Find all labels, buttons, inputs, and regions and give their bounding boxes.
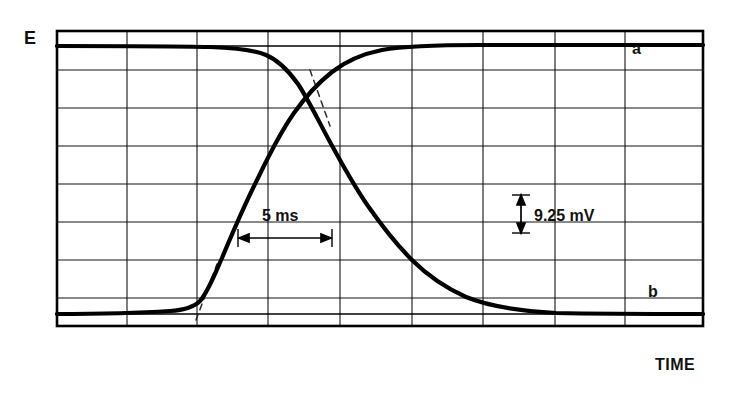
grid-horizontal-lines	[57, 70, 703, 298]
time-span-arrow	[238, 229, 332, 247]
curve-a-label: a	[632, 40, 641, 58]
voltage-span-arrow-head-bottom	[517, 223, 525, 233]
x-axis-label: TIME	[655, 356, 695, 374]
time-span-arrow-head-right	[321, 234, 331, 242]
curve-a-trace	[57, 45, 703, 314]
voltage-span-label: 9.25 mV	[534, 207, 594, 225]
time-span-label: 5 ms	[262, 207, 298, 225]
curve-b-label: b	[648, 283, 658, 301]
voltage-span-arrow-head-top	[517, 195, 525, 205]
plot-frame	[57, 31, 703, 326]
voltage-span-arrow	[512, 195, 530, 233]
time-span-arrow-head-left	[239, 234, 249, 242]
grid-vertical-lines	[127, 31, 625, 326]
curve-b-trace	[57, 46, 703, 314]
chart-figure: E TIME a b 5 ms 9.25 mV	[0, 0, 738, 409]
y-axis-label: E	[24, 28, 37, 49]
chart-canvas	[0, 0, 738, 409]
grid-emphasis-lines	[57, 46, 703, 314]
